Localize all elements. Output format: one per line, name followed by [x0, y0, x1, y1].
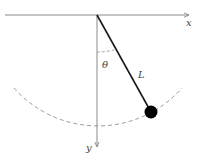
pendulum-diagram: x y θ L [0, 0, 200, 161]
pendulum-canvas: x y θ L [0, 0, 200, 161]
angle-label: θ [102, 59, 108, 70]
length-label: L [137, 69, 145, 80]
swing-arc [14, 88, 182, 126]
angle-arc [97, 50, 114, 52]
pendulum-bob [145, 106, 158, 119]
x-axis-label: x [186, 17, 192, 28]
y-axis-label: y [85, 142, 92, 153]
